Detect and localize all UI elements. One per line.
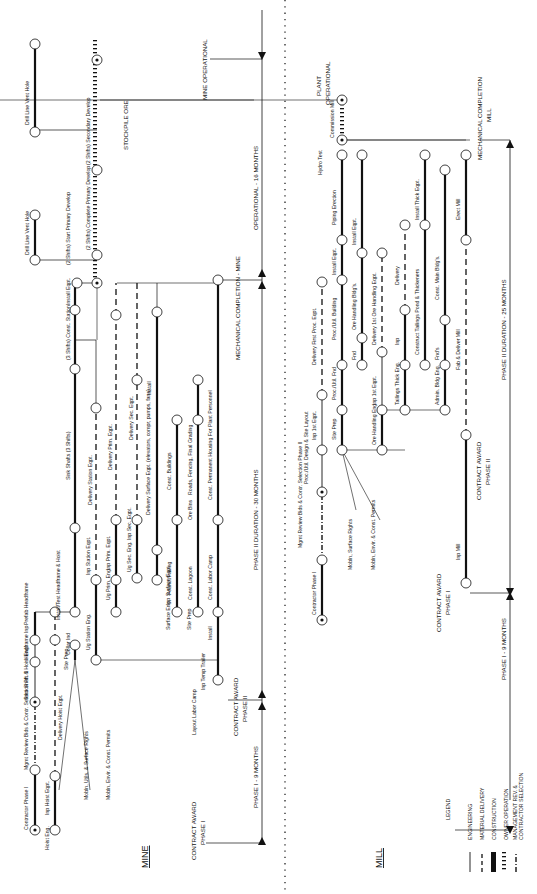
mill-act-proc-fnd: Proc./Util. Fnd [331,367,337,400]
mill-act-commission: Commission Mill [329,100,335,138]
mill-act-piping-erection: Piping Erection [331,190,337,225]
act-const-lagoon: Const. Lagoon [187,566,193,600]
act-install-eqpt: Install Eqpt. [65,278,71,305]
mill-note-mobln-envir: Mobln, Envir. & Const. Permits [370,499,376,570]
act-sink-shafts: Sink Shafts (3 Shifts) [65,431,71,480]
mill-act-install-thick: Install Thick Eqpt. [414,179,420,220]
act-site-prep-2: Site Prep [186,609,192,630]
mine-operational-label: MINE OPERATIONAL [201,39,208,100]
act-layout-labor-camp: Layout Labor Camp [191,689,197,735]
act-drill-vent-2: Drill Line Vent Hole [24,81,30,125]
mill-mech-completion-b: MILL [485,108,492,122]
act-const-buildings: Const. Buildings [166,452,172,490]
legend-owner-operation: OWNER OPERATION [503,788,509,840]
mine-contract-award-1: CONTRACT AWARD [190,801,197,860]
mill-act-inp-1st-eqpt-2: Inp 1st Eqpt. [371,376,377,405]
act-ore-bins: Ore Bins [187,499,193,520]
legend-engineering: ENGINEERING [467,804,473,840]
act-inp-prim-eqpt: Inp Prim. Eqpt. [105,536,111,570]
legend-material-delivery: MATERIAL DELIVERY [479,787,485,840]
legend: LEGEND ENGINEERING MATERIAL DELIVERY CON… [445,772,524,872]
act-hoist-eng: Hoist Eng. [44,826,50,850]
mill-act-ore-handling-eng: Ore Handling Eng. [371,402,377,445]
mill-act-erect-mill: Erect Mill [455,199,461,220]
act-delivery-station-eqpt: Delivery Station Eqpt. [87,455,93,505]
act-ug-prim-eng: Ug Prim. Eng. [105,568,111,600]
mill-note-mobln-surface: Mobln, Surface Rights [347,519,353,570]
mill-contract-award-1-phase: PHASE I [444,590,451,615]
mill-act-admin-eng: Admin. Bldg Eng. [434,365,440,405]
act-collar-ind: Collar Ind [65,633,71,655]
mill-act-fnds: Fnd's [434,347,440,360]
act-inp-station-eqpt: Inp Station Eqpt. [85,537,91,575]
mill-act-design: Proc./Util. Design & Site Layout [303,411,309,484]
act-const-labor-camp: Const. Labor Camp [207,555,213,600]
act-delivery-surface-eqpt: Delivery Surface Eqpt. (elevators, compr… [145,389,151,515]
mine-phase2-duration: PHASE II DURATION - 30 MONTHS [252,469,259,570]
mill-act-inp: Inp [394,338,400,345]
mill-act-site-prep: Site Prep [331,419,337,440]
mill-mech-completion: MECHANICAL COMPLETION [476,77,483,160]
mill-contract-award-2-phase: PHASE II [484,459,491,485]
mill-act-install-eqpt-2: Install Eqpt. [351,218,357,245]
act-start-primary-develop: (2 Shifts) Start Primary Develop [65,192,71,265]
act-install-camp: Install [207,626,213,640]
act-headframe-inp: Headframe Inp [23,626,29,660]
act-roads-fencing: Roads, Fencing, Final Grading [187,425,193,495]
mine-operational-duration: OPERATIONAL - 16 MONTHS [252,146,259,230]
mill-contract-award-2: CONTRACT AWARD [475,441,482,500]
mill-contract-award-1: CONTRACT AWARD [435,573,442,632]
mill-act-construct-tailings: Construct Tailings Pond & Thickeners [414,269,420,355]
legend-contractor-selection: CONTRACTOR SELECTION [518,772,524,840]
act-contractor-phase1: Contractor Phase I [23,787,29,830]
mill-act-inp-1st-eqpt: Inp 1st Eqpt. [311,411,317,440]
mine-section: MINE OPERATIONAL OPERATIONAL - 16 MONTHS… [23,10,266,868]
mill-act-hydro-test: Hydro Test [317,150,323,175]
act-const-station: (3 Shifts) Const. Station [65,305,71,360]
mill-act-inp-mill: Inp Mill [455,544,461,560]
plant-operational-b: OPERATIONAL [324,61,331,105]
act-ug-sec-eng: Ug Sec. Eng. [126,541,132,572]
mine-contract-award-2: CONTRACT AWARD [232,677,239,736]
mill-act-ore-handling-bldgs: Ore Handling Bldg's. [351,283,357,330]
mine-contract-award-2-phase: PHASE II [241,696,248,722]
mill-act-install-eqpt: Install Eqpt. [331,248,337,275]
mine-phase1-duration: PHASE I - 9 MONTHS [252,746,259,808]
note-mobln-envir: Mobln, Envir. & Const. Permits [105,729,111,800]
act-delivery-prim-eqpt: Delivery Prim. Eqpt. [107,424,113,470]
mill-act-delivery-1st-ore: Delivery 1st Ore Handling Eqpt. [371,272,377,345]
stockpile-label: STOCKPILE ORE [122,100,129,150]
act-inp-temp-trailer: Inp Temp Trailer [200,653,206,690]
act-const-permanent-housing: Const. Permanent Housing For Plant Perso… [207,390,213,500]
act-found-paving: Found./Paving [166,561,172,595]
act-secondary-develop: (2 Shifts) Secondary Develop [85,97,91,165]
act-install-headframe: Install/Test Headframe & Hoist [55,550,61,620]
act-install-surface: Install [146,381,152,395]
mill-act-const-main-bldgs: Const. Main Bldg's. [434,255,440,300]
mill-act-delivery: Delivery [394,266,400,285]
mill-act-contractor: Contractor Phase I [311,572,317,615]
act-complete-primary-develop: (2 Shifts) Complete Primary Develop [85,166,91,250]
mine-mech-completion-label: MECHANICAL COMPLETION - MINE [234,256,241,360]
mill-act-proc-building: Proc./Util. Building [331,298,337,340]
mine-section-title: MINE [140,846,150,869]
plant-operational: PLANT [315,76,322,96]
mill-act-fab-deliver: Fab & Deliver Mill [455,329,461,370]
act-inp-sec-eqpt: Inp Sec. Eqpt. [126,507,132,540]
mill-phase2-duration: PHASE II DURATION - 25 MONTHS [500,279,507,380]
mill-act-fnd: Fnd [351,351,357,360]
mill-act-delivery-first-proc: Delivery First Proc. Eqpt. [311,308,317,365]
mill-act-tailings-eng: Tailings Thick Eng. [394,362,400,405]
act-drill-vent-1: Drill Line Vent Hole [24,211,30,255]
act-delivery-hoist-eqpt: Delivery Hoist Eqpt. [57,694,63,740]
mill-phase1-duration: PHASE I - 9 MONTHS [500,618,507,680]
act-ug-station-eng: Ug Station Eng. [85,614,91,650]
mill-section-title: MILL [374,848,384,868]
act-delivery-sec-eqpt: Delivery Sec. Eqpt. [128,396,134,440]
mine-contract-award-1-phase: PHASE I [199,820,206,845]
legend-construction: CONSTRUCTION [491,798,497,840]
legend-title: LEGEND [445,798,451,820]
note-mobln-utils: Mobln, Utils. & Surface Rights [83,731,89,800]
act-prefab-headframe: Prefab Headframe [23,582,29,625]
mine-mill-network-diagram: MINE OPERATIONAL OPERATIONAL - 16 MONTHS… [0,0,537,894]
